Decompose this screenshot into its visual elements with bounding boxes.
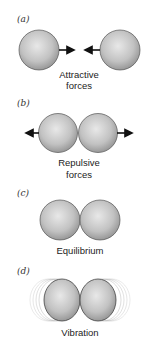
caption-equilibrium: Equilibrium (57, 245, 104, 256)
panel-label-b: (b) (17, 98, 30, 108)
right-sphere (80, 279, 116, 321)
left-sphere (44, 279, 80, 321)
right-sphere (100, 30, 140, 70)
caption-forces-b: forces (66, 169, 92, 180)
panel-d-vibration: (d) Vibration (17, 266, 130, 338)
left-sphere (40, 200, 80, 240)
panel-c-equilibrium: (c) Equilibrium (17, 188, 120, 256)
right-sphere (79, 114, 118, 153)
panel-a-attractive: (a) Attractive forces (17, 14, 140, 91)
panel-label-d: (d) (17, 266, 30, 276)
caption-repulsive: Repulsive (58, 157, 100, 168)
intermolecular-forces-diagram: (a) Attractive forces (b) Repulsive forc… (0, 0, 151, 347)
left-sphere (39, 114, 78, 153)
panel-label-a: (a) (17, 14, 30, 24)
right-sphere (80, 200, 120, 240)
caption-attractive: Attractive (59, 69, 99, 80)
panel-label-c: (c) (17, 188, 30, 198)
panel-b-repulsive: (b) Repulsive forces (17, 98, 129, 180)
left-sphere (19, 30, 59, 70)
caption-vibration: Vibration (61, 327, 98, 338)
caption-forces-a: forces (66, 80, 92, 91)
